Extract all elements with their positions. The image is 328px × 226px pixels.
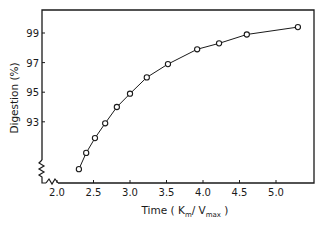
plot-frame [39,10,314,184]
x-tick-label: 2.0 [49,187,65,198]
x-tick-label: 2.5 [86,187,102,198]
data-point-marker [144,75,149,80]
data-point-marker [127,91,132,96]
x-tick-label: 3.5 [159,187,175,198]
series-line [79,27,298,169]
data-point-marker [216,41,221,46]
y-tick-label: 99 [26,28,39,39]
data-point-marker [92,135,97,140]
data-point-marker [165,61,170,66]
x-tick-label: 4.0 [195,187,211,198]
x-axis-break-icon [46,179,58,184]
x-tick-label: 3.0 [122,187,138,198]
y-tick-label: 93 [26,117,39,128]
data-point-marker [103,121,108,126]
digestion-chart: 2.02.53.03.54.04.55.0 93959799 Digestion… [0,0,328,226]
x-tick-label: 5.0 [268,187,284,198]
x-tick-label: 4.5 [232,187,248,198]
x-axis-label: Time ( Km/ Vmax ) [141,204,229,219]
y-tick-label: 95 [26,87,39,98]
y-tick-label: 97 [26,58,39,69]
data-point-marker [244,32,249,37]
data-point-marker [295,24,300,29]
y-axis-break-icon [39,160,46,183]
data-point-marker [76,167,81,172]
axes-frame [42,10,314,183]
data-point-marker [195,47,200,52]
data-point-marker [84,150,89,155]
y-axis-label: Digestion (%) [8,62,20,133]
data-series [76,24,300,171]
data-point-marker [114,104,119,109]
